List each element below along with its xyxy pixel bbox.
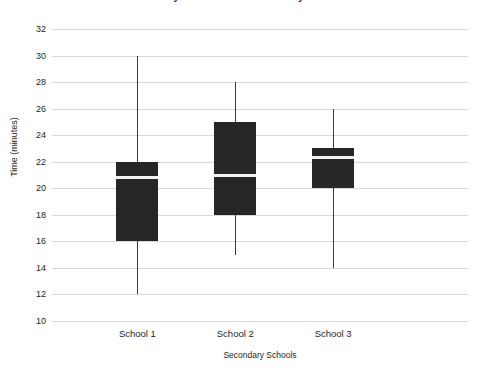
gridline xyxy=(52,29,468,30)
x-axis: School 1School 2School 3 xyxy=(52,328,468,344)
gridline xyxy=(52,215,468,216)
box-rect xyxy=(312,148,354,188)
y-tick-label: 24 xyxy=(20,131,46,140)
y-tick-label: 10 xyxy=(20,317,46,326)
y-tick-label: 32 xyxy=(20,25,46,34)
median-line xyxy=(214,174,256,177)
x-tick-label-3: School 3 xyxy=(288,328,378,339)
median-line xyxy=(116,176,158,179)
y-tick-label: 18 xyxy=(20,210,46,219)
gridline xyxy=(52,268,468,269)
y-tick-label: 30 xyxy=(20,51,46,60)
gridline xyxy=(52,241,468,242)
gridline xyxy=(52,109,468,110)
gridline xyxy=(52,82,468,83)
plot-area xyxy=(52,29,468,321)
y-tick-label: 12 xyxy=(20,290,46,299)
y-tick-label: 20 xyxy=(20,184,46,193)
box-rect xyxy=(214,122,256,215)
median-line xyxy=(312,156,354,159)
gridline xyxy=(52,321,468,322)
chart-title: Journey times to three Secondary Schools xyxy=(0,0,486,2)
y-tick-label: 26 xyxy=(20,104,46,113)
y-tick-label: 22 xyxy=(20,157,46,166)
x-tick-label-1: School 1 xyxy=(92,328,182,339)
y-axis-title: Time (minutes) xyxy=(9,87,19,207)
x-axis-title: Secondary Schools xyxy=(52,350,468,360)
y-tick-label: 16 xyxy=(20,237,46,246)
gridline xyxy=(52,162,468,163)
box-plot-chart: Journey times to three Secondary Schools… xyxy=(0,0,486,376)
x-tick-label-2: School 2 xyxy=(190,328,280,339)
box-rect xyxy=(116,162,158,242)
y-axis: 323028262422201816141210 xyxy=(16,29,46,321)
gridline xyxy=(52,135,468,136)
gridline xyxy=(52,188,468,189)
gridline xyxy=(52,56,468,57)
y-tick-label: 28 xyxy=(20,78,46,87)
gridline xyxy=(52,294,468,295)
y-tick-label: 14 xyxy=(20,263,46,272)
